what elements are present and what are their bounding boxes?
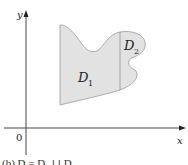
x-axis-label: x — [177, 135, 183, 146]
svg-text:2: 2 — [134, 47, 139, 56]
figure-caption: (b) D = D₁ ∪ D₂ — [2, 157, 76, 165]
y-axis-arrow-icon — [24, 10, 29, 17]
x-axis-arrow-icon — [179, 126, 186, 131]
y-axis-label: y — [16, 9, 23, 20]
origin-label: 0 — [16, 132, 22, 143]
diagram-canvas: y 0 x D 1 D 2 — [0, 0, 188, 165]
svg-text:1: 1 — [88, 79, 93, 88]
region-d — [60, 25, 145, 105]
